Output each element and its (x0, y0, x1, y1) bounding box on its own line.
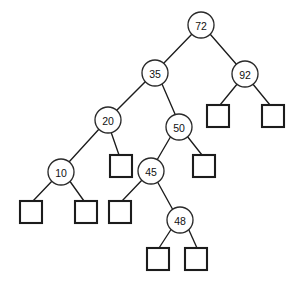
tree-edge (220, 83, 238, 105)
tree-node: 45 (138, 158, 164, 184)
tree-node: 92 (232, 61, 258, 87)
tree-edge (111, 132, 119, 155)
tree-edge (116, 81, 146, 111)
tree-node: 50 (166, 114, 192, 140)
node-key-label: 48 (174, 215, 186, 227)
tree-edge (33, 180, 53, 201)
tree-edge (69, 128, 100, 162)
node-key-label: 45 (145, 166, 157, 178)
node-key-label: 92 (239, 69, 251, 81)
null-leaf-square (185, 248, 207, 270)
tree-node: 10 (48, 159, 74, 185)
binary-search-tree-figure: 7235922050104548 (0, 0, 301, 284)
null-leaf-square (193, 155, 215, 177)
tree-node: 35 (142, 60, 168, 86)
tree-edge (157, 181, 173, 210)
null-leaf-square (147, 248, 169, 270)
null-leaf-square (207, 105, 229, 127)
tree-edge (69, 180, 84, 201)
null-leaf-square (110, 155, 132, 177)
node-key-label: 35 (149, 68, 161, 80)
tree-edge (122, 179, 143, 201)
tree-node: 72 (188, 12, 214, 38)
node-key-label: 20 (102, 115, 114, 127)
tree-canvas: 7235922050104548 (0, 0, 301, 284)
null-leaf-square (75, 201, 97, 223)
tree-edge (252, 83, 270, 105)
null-leaf-square (262, 105, 284, 127)
tree-edge (162, 84, 175, 114)
null-leaf-square (20, 201, 42, 223)
null-leaves-layer (20, 105, 284, 270)
tree-edge (188, 228, 197, 248)
tree-edge (163, 34, 192, 64)
tree-edge (157, 136, 171, 160)
tree-edge (210, 34, 237, 65)
node-key-label: 72 (195, 20, 207, 32)
tree-node: 48 (167, 207, 193, 233)
tree-edge (159, 228, 172, 248)
null-leaf-square (109, 201, 131, 223)
node-key-label: 50 (173, 122, 185, 134)
tree-node: 20 (95, 107, 121, 133)
node-key-label: 10 (55, 167, 67, 179)
tree-edge (187, 136, 202, 155)
